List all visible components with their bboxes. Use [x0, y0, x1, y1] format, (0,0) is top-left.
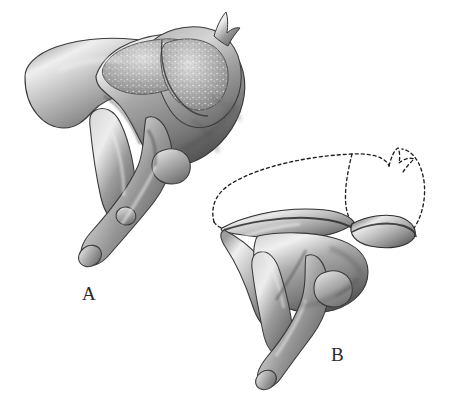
anatomical-plate: A: [0, 0, 453, 409]
figure-a-label: A: [82, 283, 96, 304]
figure-a-lenticular-process: [152, 149, 190, 184]
figure-b-cut-surface-malleus: [351, 215, 415, 248]
figure-b-label: B: [331, 344, 344, 365]
